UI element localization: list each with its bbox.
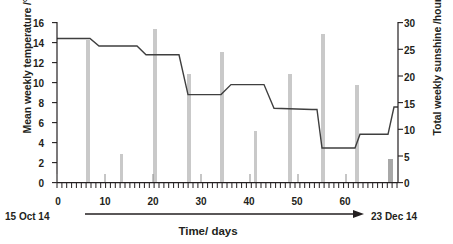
- bar-day-34: [220, 52, 224, 182]
- x-major-ticks: [57, 174, 346, 182]
- bar-day-13: [120, 154, 123, 182]
- bar-day-6: [86, 40, 90, 182]
- bar-day-55: [321, 34, 325, 182]
- bar-day-48: [288, 74, 292, 182]
- chart-container: Mean weekly temperature /°C Total weekly…: [0, 0, 453, 244]
- y-left-ticks: [52, 23, 57, 183]
- bar-day-20: [153, 29, 157, 182]
- x-minor-ticks: [57, 183, 397, 188]
- bar-day-62: [355, 85, 359, 182]
- bars-group: [86, 29, 393, 182]
- chart-plot-svg: [0, 0, 453, 244]
- bar-day-41: [254, 131, 257, 182]
- bar-day-69: [388, 159, 393, 182]
- timeline-arrow: [85, 210, 364, 218]
- temperature-line: [57, 39, 398, 149]
- y-right-ticks: [398, 23, 403, 183]
